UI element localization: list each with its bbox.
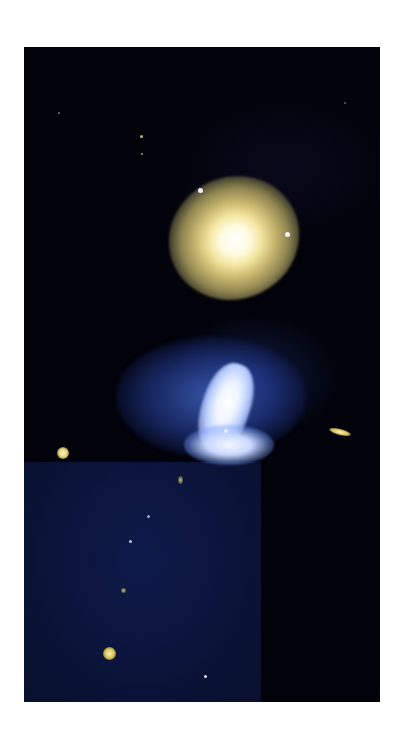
- star: [121, 588, 126, 593]
- star: [285, 232, 290, 237]
- star: [147, 515, 150, 518]
- yellow-star-left: [57, 447, 69, 459]
- star: [204, 675, 207, 678]
- galaxy-photograph: [24, 47, 380, 702]
- star: [198, 188, 203, 193]
- star: [178, 476, 183, 484]
- star-forming-knots: [184, 425, 274, 465]
- star: [140, 135, 143, 138]
- star: [129, 540, 132, 543]
- star: [224, 429, 228, 433]
- star: [344, 102, 346, 104]
- star: [58, 112, 60, 114]
- star: [141, 153, 143, 155]
- yellow-star-bottom: [103, 647, 116, 660]
